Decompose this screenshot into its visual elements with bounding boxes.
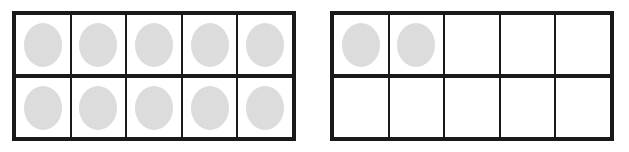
counter-circle bbox=[24, 23, 62, 67]
frame-cell-filled[interactable] bbox=[390, 15, 446, 74]
frame-cell-filled[interactable] bbox=[16, 15, 72, 74]
left-ten-frame bbox=[12, 11, 296, 141]
frame-cell-filled[interactable] bbox=[127, 78, 183, 137]
frame-row-bottom bbox=[334, 76, 610, 137]
frame-cell-empty[interactable] bbox=[556, 78, 610, 137]
right-ten-frame bbox=[330, 11, 614, 141]
counter-circle bbox=[79, 23, 117, 67]
frame-cell-empty[interactable] bbox=[334, 78, 390, 137]
frame-cell-filled[interactable] bbox=[127, 15, 183, 74]
counter-circle bbox=[246, 23, 284, 67]
frame-cell-filled[interactable] bbox=[238, 15, 292, 74]
frame-cell-empty[interactable] bbox=[556, 15, 610, 74]
frame-cell-filled[interactable] bbox=[16, 78, 72, 137]
counter-circle bbox=[24, 86, 62, 130]
ten-frame-canvas bbox=[0, 0, 629, 152]
frame-row-bottom bbox=[16, 76, 292, 137]
frame-cell-empty[interactable] bbox=[445, 15, 501, 74]
frame-cell-empty[interactable] bbox=[390, 78, 446, 137]
counter-circle bbox=[135, 23, 173, 67]
frame-row-top bbox=[16, 15, 292, 76]
counter-circle bbox=[342, 23, 380, 67]
frame-cell-filled[interactable] bbox=[183, 15, 239, 74]
counter-circle bbox=[246, 86, 284, 130]
frame-cell-filled[interactable] bbox=[72, 15, 128, 74]
counter-circle bbox=[135, 86, 173, 130]
counter-circle bbox=[191, 23, 229, 67]
frame-cell-filled[interactable] bbox=[238, 78, 292, 137]
frame-cell-empty[interactable] bbox=[501, 15, 557, 74]
frame-cell-empty[interactable] bbox=[501, 78, 557, 137]
frame-cell-empty[interactable] bbox=[445, 78, 501, 137]
frame-cell-filled[interactable] bbox=[334, 15, 390, 74]
counter-circle bbox=[79, 86, 117, 130]
counter-circle bbox=[397, 23, 435, 67]
counter-circle bbox=[191, 86, 229, 130]
frame-cell-filled[interactable] bbox=[72, 78, 128, 137]
frame-cell-filled[interactable] bbox=[183, 78, 239, 137]
frame-row-top bbox=[334, 15, 610, 76]
